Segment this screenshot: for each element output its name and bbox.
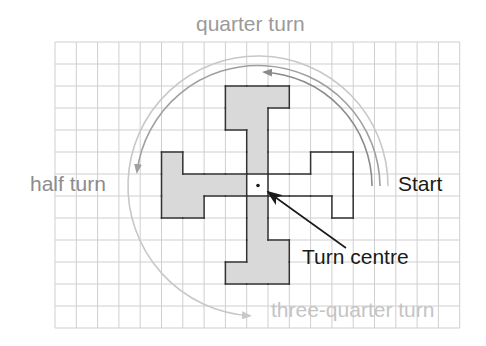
half-turn-label: half turn bbox=[30, 173, 106, 194]
rotation-diagram: quarter turn half turn three-quarter tur… bbox=[0, 0, 486, 346]
turn-centre-label: Turn centre bbox=[302, 246, 409, 267]
turn-centre-dot bbox=[256, 184, 260, 188]
start-label: Start bbox=[398, 173, 442, 194]
quarter-turn-label: quarter turn bbox=[196, 13, 305, 34]
three-quarter-turn-label: three-quarter turn bbox=[271, 299, 434, 320]
